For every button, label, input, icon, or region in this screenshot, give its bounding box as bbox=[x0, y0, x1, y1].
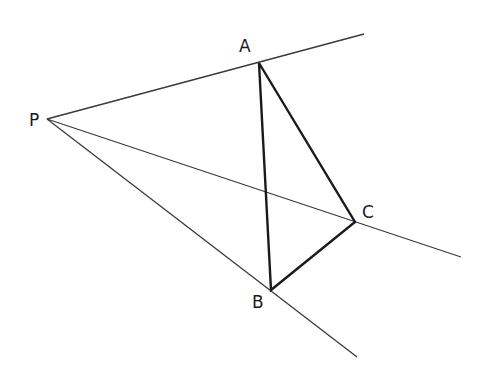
ray-PC bbox=[47, 119, 461, 257]
geometry-diagram: P A B C bbox=[0, 0, 488, 380]
ray-PA bbox=[47, 34, 364, 119]
label-P: P bbox=[29, 110, 39, 130]
ray-PB bbox=[47, 119, 357, 357]
triangle-outline bbox=[259, 63, 355, 290]
label-C: C bbox=[362, 202, 374, 222]
label-A: A bbox=[239, 36, 251, 56]
label-B: B bbox=[252, 292, 264, 312]
triangle-ABC bbox=[259, 63, 355, 290]
